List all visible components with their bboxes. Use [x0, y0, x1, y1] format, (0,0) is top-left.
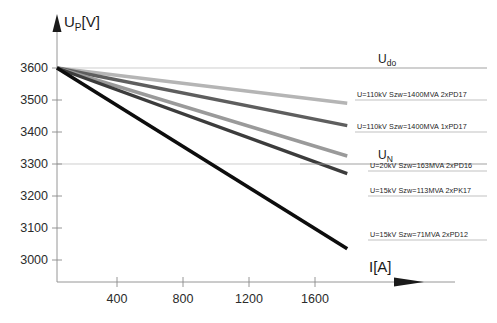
y-tick-label-3400: 3400 [20, 125, 48, 139]
data-series-group [57, 68, 347, 249]
x-axis-arrow-icon [394, 278, 424, 287]
series-label-1: U=110kV Szw=1400MVA 1xPD17 [357, 122, 467, 131]
y-axis-title: UP[V] [64, 13, 100, 33]
y-tick-label-3200: 3200 [20, 189, 48, 203]
y-axis-arrow-icon [53, 14, 62, 32]
y-tick-label-3300: 3300 [20, 157, 48, 171]
x-tick-label-1600: 1600 [301, 292, 329, 306]
y-tick-label-3600: 3600 [20, 61, 48, 75]
x-tick-label-1200: 1200 [235, 292, 263, 306]
y-tick-label-3500: 3500 [20, 93, 48, 107]
x-axis-title: I[A] [369, 258, 392, 275]
series-line-2-u20kv-2xpd16 [57, 68, 347, 156]
x-tick-labels: 400 800 1200 1600 [107, 292, 329, 306]
x-tick-label-800: 800 [173, 292, 194, 306]
y-axis-title-unit: [V] [82, 13, 100, 30]
y-tick-label-3100: 3100 [20, 221, 48, 235]
y-axis-title-main: U [64, 13, 75, 30]
series-label-0: U=110kV Szw=1400MVA 2xPD17 [357, 90, 467, 99]
reference-label-un-main: U [378, 148, 387, 162]
series-label-2: U=20kV Szw=163MVA 2xPD16 [370, 161, 472, 170]
series-label-4: U=15kV Szw=71MVA 2xPD12 [370, 230, 468, 239]
chart-container: 3600 3500 3400 3300 3200 3100 3000 UP[V]… [0, 0, 497, 323]
voltage-drop-line-chart: 3600 3500 3400 3300 3200 3100 3000 UP[V]… [0, 0, 497, 323]
y-tick-label-3000: 3000 [20, 253, 48, 267]
series-labels: U=110kV Szw=1400MVA 2xPD17 U=110kV Szw=1… [357, 90, 472, 239]
x-tick-label-400: 400 [107, 292, 128, 306]
y-tick-labels: 3600 3500 3400 3300 3200 3100 3000 [20, 61, 48, 267]
series-label-3: U=15kV Szw=113MVA 2xPK17 [370, 186, 471, 195]
reference-label-udo-sub: do [387, 58, 397, 68]
reference-label-udo-main: U [378, 52, 387, 66]
reference-label-udo: Udo [378, 52, 396, 68]
